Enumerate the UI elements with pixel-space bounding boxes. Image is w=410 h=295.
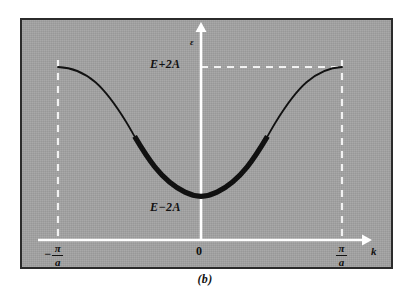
- y-axis-arrowhead: [196, 22, 207, 32]
- x-tick-label-left: − π a: [44, 243, 63, 268]
- energy-max-label: E+2A: [150, 57, 180, 72]
- x-tick-label-right: π a: [336, 243, 347, 268]
- fraction-numerator: π: [337, 243, 345, 255]
- dispersion-curve-left-wing: [58, 67, 135, 136]
- energy-min-label: E−2A: [150, 200, 181, 215]
- y-axis-label: ε: [190, 37, 194, 47]
- origin-tick-label: 0: [196, 244, 202, 259]
- fraction-denominator: a: [54, 256, 62, 268]
- fraction-denominator: a: [338, 256, 346, 268]
- dispersion-curve-right-wing: [267, 67, 342, 136]
- minus-sign: −: [44, 247, 51, 262]
- figure-caption: (b): [0, 272, 410, 287]
- fraction-numerator: π: [54, 243, 62, 255]
- fraction-stack: π a: [336, 243, 347, 268]
- x-axis-arrowhead: [362, 235, 372, 246]
- fraction-stack: π a: [52, 243, 63, 268]
- figure-container: ε E+2A E−2A k 0 − π a π a (b): [0, 0, 410, 295]
- x-axis-label: k: [371, 245, 377, 257]
